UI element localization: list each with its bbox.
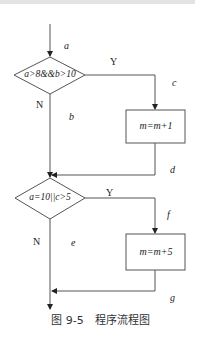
yes-label-2: Y <box>106 188 113 198</box>
edge-label-f: f <box>167 210 170 220</box>
edge-label-c: c <box>172 78 176 88</box>
figure-caption: 图 9-5 程序流程图 <box>0 311 201 327</box>
edge-label-b: b <box>69 112 74 122</box>
edge-label-e: e <box>71 238 75 248</box>
edge-label-g: g <box>170 293 175 303</box>
condition-2-text: a=10||c>5 <box>29 193 70 203</box>
condition-1-text: a>8&&b>10 <box>24 70 75 80</box>
yes-label-1: Y <box>110 57 117 67</box>
no-label-1: N <box>36 100 43 110</box>
edge-label-d: d <box>170 165 175 175</box>
no-label-2: N <box>33 237 40 247</box>
process-2-text: m=m+5 <box>140 247 173 257</box>
process-1-text: m=m+1 <box>140 121 173 131</box>
edge-label-a: a <box>64 41 69 51</box>
